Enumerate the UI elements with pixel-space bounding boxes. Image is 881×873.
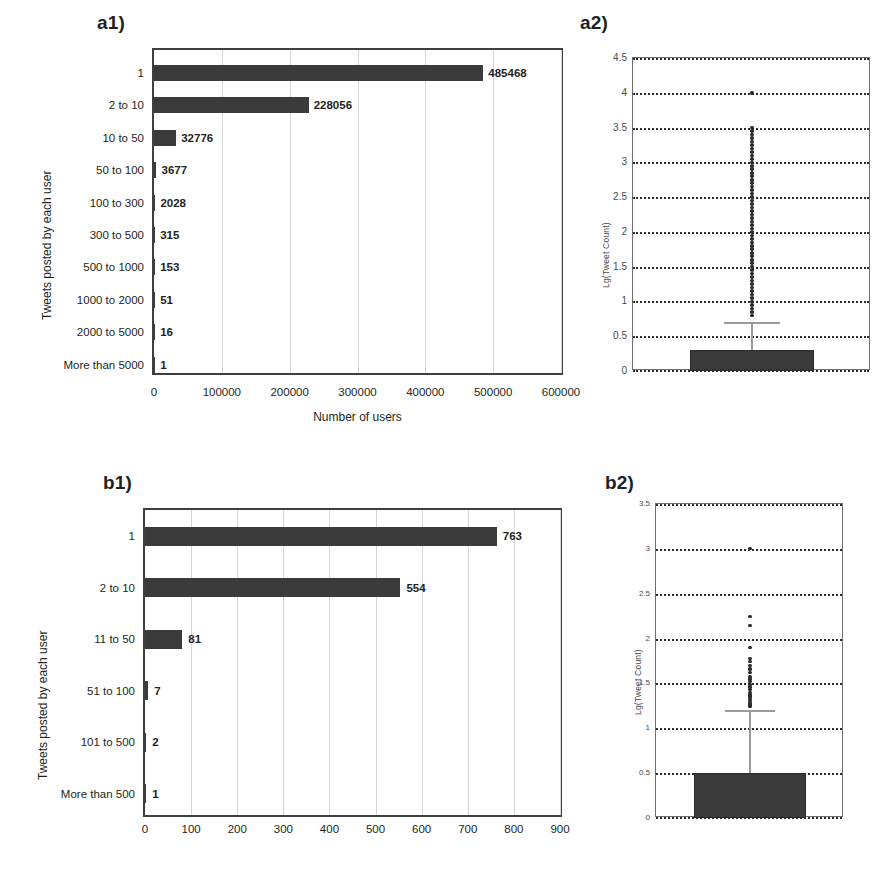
y-tick-label: 1 xyxy=(646,723,650,732)
y-axis-title: Lg(Tweet Count) xyxy=(633,649,643,715)
whisker-cap xyxy=(725,710,776,712)
y-tick-label: 3.5 xyxy=(639,499,650,508)
gridline-b2-7 xyxy=(656,504,842,506)
y-tick-label: 3 xyxy=(646,543,650,552)
outlier-point xyxy=(748,671,751,674)
box xyxy=(694,773,807,818)
whisker-line xyxy=(749,710,751,773)
gridline-b2-4 xyxy=(656,639,842,641)
y-tick-label: 2.5 xyxy=(639,588,650,597)
panel-label-b2: b2) xyxy=(605,472,634,494)
outlier-point xyxy=(748,615,751,618)
y-tick-label: 2 xyxy=(646,633,650,642)
panel-b2: 00.511.522.533.5Lg(Tweet Count) xyxy=(0,0,881,873)
y-tick-label: 0.5 xyxy=(639,768,650,777)
outlier-point xyxy=(748,646,751,649)
gridline-b2-5 xyxy=(656,594,842,596)
outlier-point xyxy=(748,705,751,708)
figure-root: { "figure": { "background": "#ffffff", "… xyxy=(0,0,881,873)
y-tick-label: 0 xyxy=(646,813,650,822)
outlier-point xyxy=(748,624,751,627)
plot-area-b2 xyxy=(655,503,843,817)
